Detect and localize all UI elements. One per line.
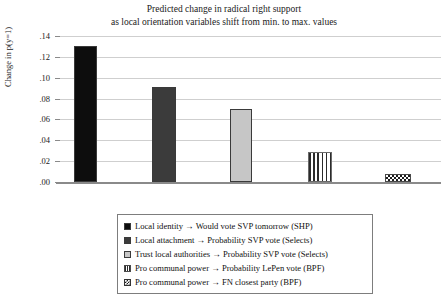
solid-black-swatch xyxy=(124,223,131,230)
y-axis-tick-label: .12 xyxy=(16,52,50,62)
chart-title-line-2: as local orientation variables shift fro… xyxy=(0,16,448,29)
chart-title-line-1: Predicted change in radical right suppor… xyxy=(0,3,448,16)
gridline xyxy=(60,78,441,79)
y-axis-tick xyxy=(55,36,60,37)
chart-title: Predicted change in radical right suppor… xyxy=(0,3,448,28)
y-axis-tick xyxy=(55,182,60,183)
solid-darkgray-swatch xyxy=(124,237,131,244)
y-axis-tick xyxy=(55,57,60,58)
x-axis-baseline xyxy=(56,182,441,184)
legend-item-label: Local identity → Would vote SVP tomorrow… xyxy=(135,221,313,231)
y-axis-tick xyxy=(55,140,60,141)
bar-4 xyxy=(308,152,332,182)
legend-item-label: Trust local authorities → Probability SV… xyxy=(135,249,328,259)
bar-1 xyxy=(74,46,97,182)
y-axis-tick-label: .14 xyxy=(16,31,50,41)
chart-legend: Local identity → Would vote SVP tomorrow… xyxy=(117,214,373,294)
bar-2 xyxy=(152,87,176,182)
legend-item: Trust local authorities → Probability SV… xyxy=(124,247,367,261)
legend-item: Local attachment → Probability SVP vote … xyxy=(124,233,367,247)
legend-item: Pro communal power → Probability LePen v… xyxy=(124,261,367,275)
legend-item-label: Local attachment → Probability SVP vote … xyxy=(135,235,312,245)
y-axis-tick-label: .02 xyxy=(16,156,50,166)
y-axis-label: Change in p(y=1) xyxy=(3,0,13,117)
bar-chart-figure: Predicted change in radical right suppor… xyxy=(0,0,448,303)
gridline xyxy=(60,36,441,37)
y-axis-tick xyxy=(55,78,60,79)
y-axis-tick-label: .10 xyxy=(16,73,50,83)
y-axis-tick-label: .06 xyxy=(16,114,50,124)
plot-area: .00.02.04.06.08.10.12.14 xyxy=(60,36,441,182)
gridline xyxy=(60,99,441,100)
bar-3 xyxy=(230,109,252,182)
y-axis-tick xyxy=(55,161,60,162)
legend-item: Pro communal power → FN closest party (B… xyxy=(124,275,367,289)
checkerboard-swatch xyxy=(124,279,131,286)
vertical-stripe-swatch xyxy=(124,265,131,272)
solid-lightgray-swatch xyxy=(124,251,131,258)
y-axis-tick-label: .08 xyxy=(16,94,50,104)
gridline xyxy=(60,57,441,58)
legend-item: Local identity → Would vote SVP tomorrow… xyxy=(124,219,367,233)
legend-item-label: Pro communal power → FN closest party (B… xyxy=(135,277,301,287)
y-axis-tick-label: .04 xyxy=(16,135,50,145)
bar-5 xyxy=(385,174,411,182)
y-axis-tick xyxy=(55,99,60,100)
y-axis-tick xyxy=(55,119,60,120)
y-axis-tick-label: .00 xyxy=(16,177,50,187)
legend-item-label: Pro communal power → Probability LePen v… xyxy=(135,263,324,273)
